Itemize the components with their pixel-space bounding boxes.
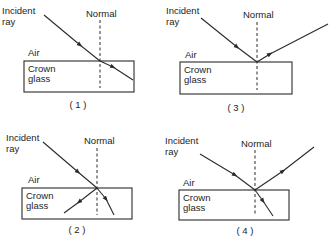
diagram-1: Incident ray Normal Air Crown glass ( 1 … xyxy=(2,5,134,110)
diagram-2: Incident ray Normal Air Crown glass ( 2 … xyxy=(6,132,132,235)
normal-label: Normal xyxy=(243,9,274,20)
incident-ray-label: Incident xyxy=(165,135,199,146)
second-ray xyxy=(79,188,97,202)
glass-label-2: glass xyxy=(28,73,50,84)
reflected-ray-end xyxy=(270,24,328,54)
reflected-ray xyxy=(257,54,270,62)
normal-label: Normal xyxy=(84,135,115,146)
incident-ray-label-2: ray xyxy=(166,16,179,27)
incident-ray-label-2: ray xyxy=(165,146,178,157)
diagram-3: Incident ray Normal Air Crown glass ( 3 … xyxy=(166,5,328,113)
normal-label: Normal xyxy=(241,138,272,149)
air-label: Air xyxy=(183,177,195,188)
refracted-ray-end xyxy=(263,201,273,216)
refracted-ray xyxy=(97,188,106,199)
glass-label-2: glass xyxy=(184,74,206,85)
caption-3: ( 3 ) xyxy=(228,102,245,113)
incident-ray-label: Incident xyxy=(166,5,200,16)
refraction-diagrams: Incident ray Normal Air Crown glass ( 1 … xyxy=(0,0,333,245)
incident-ray-end xyxy=(235,175,255,190)
caption-1: ( 1 ) xyxy=(70,99,87,110)
air-label: Air xyxy=(28,47,40,58)
incident-ray xyxy=(201,18,237,47)
reflected-ray-end xyxy=(283,147,314,171)
refracted-ray xyxy=(255,190,263,201)
air-label: Air xyxy=(185,49,197,60)
incident-ray xyxy=(200,154,235,175)
incident-ray-end xyxy=(78,172,97,188)
second-ray-end xyxy=(64,202,79,213)
incident-ray-label: Incident xyxy=(2,5,36,16)
caption-2: ( 2 ) xyxy=(69,224,86,235)
incident-ray xyxy=(43,142,78,172)
diagram-4: Incident ray Normal Air Crown glass ( 4 … xyxy=(165,135,314,236)
caption-4: ( 4 ) xyxy=(237,225,254,236)
incident-ray-label-2: ray xyxy=(6,143,19,154)
incident-ray xyxy=(44,15,80,45)
reflected-ray xyxy=(255,171,283,190)
normal-label: Normal xyxy=(86,8,117,19)
refracted-ray xyxy=(100,61,113,67)
incident-ray-end xyxy=(80,45,100,61)
incident-ray-label-2: ray xyxy=(2,16,15,27)
refracted-ray-end xyxy=(113,67,133,80)
air-label: Air xyxy=(28,174,40,185)
incident-ray-label: Incident xyxy=(6,132,40,143)
glass-label-2: glass xyxy=(183,202,205,213)
refracted-ray-end xyxy=(106,199,114,215)
glass-label-2: glass xyxy=(26,200,48,211)
incident-ray-end xyxy=(237,47,257,62)
